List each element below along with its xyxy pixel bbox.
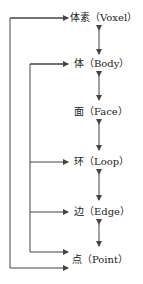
node-point: 点（Point）	[72, 254, 128, 266]
node-voxel: 体素（Voxel）	[70, 12, 137, 24]
node-loop: 环（Loop）	[74, 156, 129, 168]
node-face: 面（Face）	[74, 106, 128, 118]
diagram-connectors	[0, 0, 143, 284]
node-body: 体（Body）	[74, 58, 129, 70]
node-edge: 边（Edge）	[74, 206, 130, 218]
